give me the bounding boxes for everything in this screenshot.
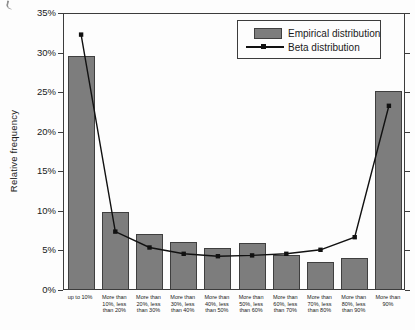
- line-marker-swatch-icon: [246, 46, 284, 48]
- x-tick-label: More than20%, lessthan 30%: [129, 294, 167, 314]
- y-tick-mark-right: [405, 92, 410, 93]
- legend-item-beta: Beta distribution: [238, 40, 380, 54]
- legend-label-empirical: Empirical distribution: [288, 28, 380, 39]
- empirical-bar: [136, 234, 163, 289]
- y-tick-mark-right: [405, 13, 410, 14]
- empirical-bar: [170, 242, 197, 289]
- y-tick-mark-left: [58, 132, 63, 133]
- y-tick-mark-left: [58, 13, 63, 14]
- empirical-bar: [204, 248, 231, 289]
- chart-figure: Relative frequency 0%5%10%15%20%25%30%35…: [0, 0, 415, 330]
- y-tick-mark-left: [58, 250, 63, 251]
- empirical-bar: [239, 243, 266, 289]
- beta-line-marker: [353, 235, 357, 239]
- beta-line-marker: [79, 32, 83, 36]
- y-tick-mark-right: [405, 250, 410, 251]
- y-tick-label: 20%: [19, 127, 56, 137]
- y-tick-label: 15%: [19, 166, 56, 176]
- legend-label-beta: Beta distribution: [288, 42, 360, 53]
- y-tick-label: 0%: [19, 285, 56, 295]
- x-tick-label: More than70%, lessthan 80%: [300, 294, 338, 314]
- x-tick-label: up to 10%: [61, 294, 99, 301]
- legend-item-empirical: Empirical distribution: [238, 26, 380, 40]
- empirical-bar: [68, 56, 95, 289]
- empirical-bar: [341, 258, 368, 289]
- empirical-bar: [273, 255, 300, 289]
- y-tick-label: 10%: [19, 206, 56, 216]
- y-axis-title: Relative frequency: [8, 110, 19, 192]
- y-tick-mark-right: [405, 211, 410, 212]
- legend: Empirical distribution Beta distribution: [237, 20, 381, 59]
- y-tick-mark-left: [58, 211, 63, 212]
- y-tick-mark-right: [405, 132, 410, 133]
- empirical-bar: [102, 212, 129, 289]
- empirical-bar: [307, 262, 334, 289]
- beta-line-marker: [318, 248, 322, 252]
- y-tick-mark-left: [58, 53, 63, 54]
- y-tick-label: 5%: [19, 245, 56, 255]
- empirical-bar: [375, 91, 402, 289]
- y-tick-mark-right: [405, 53, 410, 54]
- x-tick-label: More than10%, lessthan 20%: [95, 294, 133, 314]
- x-tick-label: More than40%, lessthan 50%: [198, 294, 236, 314]
- bar-swatch-icon: [254, 28, 282, 39]
- y-tick-mark-right: [405, 290, 410, 291]
- y-tick-mark-left: [58, 92, 63, 93]
- x-tick-label: More than90%: [369, 294, 407, 307]
- x-tick-label: More than50%, lessthan 60%: [232, 294, 270, 314]
- scan-artifact-mark: [5, 0, 14, 10]
- y-tick-label: 30%: [19, 48, 56, 58]
- y-tick-label: 35%: [19, 8, 56, 18]
- y-tick-label: 25%: [19, 87, 56, 97]
- y-tick-mark-left: [58, 290, 63, 291]
- y-tick-mark-right: [405, 171, 410, 172]
- legend-swatch-column: [238, 46, 288, 48]
- x-tick-label: More than60%, lessthan 70%: [266, 294, 304, 314]
- y-tick-mark-left: [58, 171, 63, 172]
- x-tick-label: More than80%, lessthan 90%: [335, 294, 373, 314]
- x-tick-label: More than30%, lessthan 40%: [164, 294, 202, 314]
- legend-swatch-column: [238, 28, 288, 39]
